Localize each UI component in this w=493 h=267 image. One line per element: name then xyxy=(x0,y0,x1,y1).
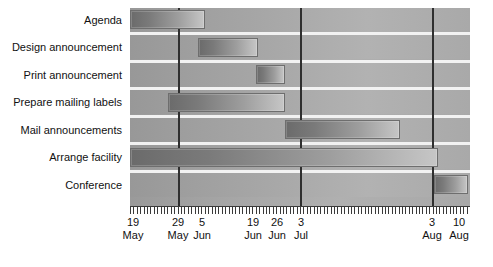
task-label-mail-announcements: Mail announcements xyxy=(20,125,122,136)
task-label-design-announcement: Design announcement xyxy=(12,42,122,53)
gantt-bar-conference[interactable] xyxy=(434,175,468,194)
task-label-print-announcement: Print announcement xyxy=(24,70,122,81)
x-tick-3-aug: 3 Aug xyxy=(417,216,447,242)
gantt-bar-arrange-facility[interactable] xyxy=(130,148,438,167)
timeline-ruler xyxy=(130,206,470,214)
gantt-bar-print-announcement[interactable] xyxy=(256,65,285,84)
x-tick-3-jul: 3 Jul xyxy=(286,216,316,242)
task-label-conference: Conference xyxy=(65,180,122,191)
milestone-line-3-jul xyxy=(300,8,302,206)
task-label-arrange-facility: Arrange facility xyxy=(49,152,122,163)
x-tick-19-may: 19 May xyxy=(118,216,148,242)
gantt-plot-area xyxy=(130,8,470,206)
gantt-chart: Agenda Design announcement Print announc… xyxy=(0,0,493,267)
task-label-column: Agenda Design announcement Print announc… xyxy=(0,8,126,206)
task-label-prepare-mailing-labels: Prepare mailing labels xyxy=(13,97,122,108)
ruler-ticks xyxy=(130,206,470,214)
gantt-bar-design-announcement[interactable] xyxy=(198,38,258,57)
gantt-bar-prepare-mailing-labels[interactable] xyxy=(168,93,285,112)
x-tick-10-aug: 10 Aug xyxy=(444,216,474,242)
task-label-agenda: Agenda xyxy=(84,15,122,26)
x-tick-5-jun: 5 Jun xyxy=(187,216,217,242)
gantt-bar-agenda[interactable] xyxy=(130,10,205,29)
x-axis-labels: 19 May 29 May 5 Jun 19 Jun 26 Jun 3 Jul … xyxy=(0,216,493,256)
gantt-bar-mail-announcements[interactable] xyxy=(285,120,400,139)
